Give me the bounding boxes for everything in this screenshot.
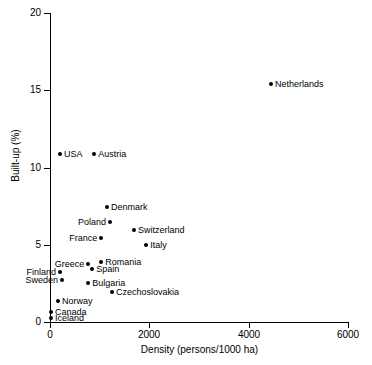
y-tick-mark [44,168,50,169]
data-point-marker [92,152,96,156]
x-tick-mark [149,322,150,328]
scatter-chart: 05101520 0200040006000 Built-up (%) Dens… [0,0,372,365]
data-point-marker [99,236,103,240]
data-point-label: Denmark [111,203,148,212]
data-point-marker [110,290,114,294]
x-tick-label: 2000 [138,329,160,340]
y-tick-label: 5 [35,240,41,250]
data-point-marker [60,278,64,282]
data-point-marker [144,243,148,247]
x-tick-mark [348,322,349,328]
y-tick-label: 10 [30,163,41,173]
data-point-marker [132,228,136,232]
data-point-marker [49,310,53,314]
x-tick-label: 4000 [238,329,260,340]
data-point-marker [58,270,62,274]
y-tick-mark [44,13,50,14]
data-point-marker [86,281,90,285]
data-point-label: Italy [150,241,167,250]
data-point-label: Spain [96,265,119,274]
data-point-marker [269,82,273,86]
data-point-label: USA [64,150,83,159]
data-point-label: Austria [98,150,126,159]
x-axis-line [50,322,349,323]
x-tick-label: 0 [47,329,53,340]
x-tick-mark [249,322,250,328]
x-tick-mark [50,322,51,328]
data-point-marker [105,205,109,209]
data-point-label: Poland [78,218,106,227]
data-point-label: Norway [62,297,93,306]
y-tick-mark [44,90,50,91]
y-tick-label: 20 [30,8,41,18]
data-point-marker [108,220,112,224]
data-point-label: Iceland [55,314,84,323]
data-point-marker [58,152,62,156]
data-point-label: Czechoslovakia [116,288,179,297]
x-axis-title: Density (persons/1000 ha) [50,344,349,355]
y-tick-mark [44,245,50,246]
data-point-marker [90,267,94,271]
data-point-label: Sweden [25,276,58,285]
data-point-label: Greece [55,260,85,269]
data-point-marker [86,262,90,266]
data-point-label: Switzerland [138,226,185,235]
data-point-label: Netherlands [275,80,324,89]
x-tick-label: 6000 [337,329,359,340]
data-point-marker [49,316,53,320]
y-axis-title: Built-up (%) [10,96,21,216]
data-point-marker [56,299,60,303]
data-point-label: France [69,234,97,243]
y-tick-label: 0 [35,317,41,327]
y-tick-label: 15 [30,85,41,95]
